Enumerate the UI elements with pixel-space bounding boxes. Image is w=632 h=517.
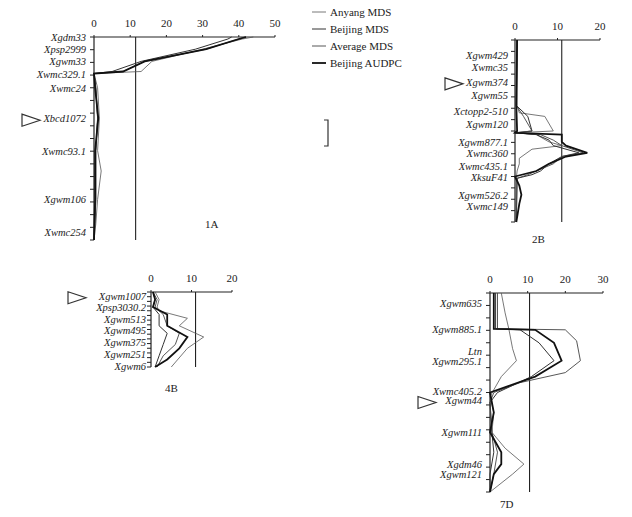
legend-item-anyang: Anyang MDS	[312, 6, 391, 18]
marker-label: Xwmc24	[49, 83, 87, 94]
marker-label: Xwmc360	[466, 148, 509, 159]
series-anyang-7D	[490, 293, 524, 492]
panel-4B: 01020Xgwm1007Xpsp3030.2Xgwm513Xgwm495Xgw…	[68, 272, 238, 394]
marker-label: Xgwm429	[465, 50, 509, 61]
marker-label: Xgwm106	[43, 194, 87, 205]
marker-label: Xgwm6	[114, 361, 147, 372]
marker-label: Xgwm44	[444, 395, 483, 406]
marker-label: Xgwm121	[439, 469, 482, 480]
series-beijing-1A	[94, 37, 232, 240]
marker-label: Xwmc254	[44, 227, 87, 238]
x-tick-label: 0	[487, 273, 493, 285]
series-average-1A	[94, 37, 246, 240]
marker-label: Xbcd1072	[42, 113, 86, 124]
marker-label: Xpsp3030.2	[95, 302, 147, 313]
legend-label-beijing: Beijing MDS	[330, 23, 389, 35]
x-tick-label: 0	[148, 272, 154, 284]
legend-label-anyang: Anyang MDS	[330, 6, 391, 18]
legend-item-beijing: Beijing MDS	[312, 23, 389, 35]
marker-label: Xctopp2-510	[453, 106, 509, 117]
highlight-triangle-icon	[445, 78, 463, 90]
qtl-figure: Anyang MDSBeijing MDSAverage MDSBeijing …	[0, 0, 632, 517]
series-average-7D	[490, 293, 580, 492]
x-tick-label: 10	[125, 17, 137, 29]
marker-label: Xgwm33	[48, 56, 86, 67]
marker-label: Xgwm1007	[98, 291, 147, 302]
x-tick-label: 20	[560, 273, 572, 285]
marker-label: Xwmc329.1	[36, 69, 86, 80]
legend: Anyang MDSBeijing MDSAverage MDSBeijing …	[312, 6, 402, 69]
legend-label-audpc: Beijing AUDPC	[330, 57, 402, 69]
panel-2B: 01020Xgwm429Xwmc35Xgwm374Xgwm55Xctopp2-5…	[445, 20, 606, 245]
legend-item-average: Average MDS	[312, 40, 393, 52]
marker-label: Xgwm877.1	[457, 137, 508, 148]
marker-label: Xgwm495	[103, 325, 146, 336]
x-tick-label: 30	[197, 17, 209, 29]
x-tick-label: 0	[91, 17, 97, 29]
legend-label-average: Average MDS	[330, 40, 393, 52]
marker-label: Xgwm885.1	[431, 324, 482, 335]
x-tick-label: 40	[233, 17, 245, 29]
highlight-triangle-icon	[418, 396, 436, 408]
marker-label: Xgwm111	[441, 427, 482, 438]
marker-label: Xgdm33	[50, 32, 86, 43]
panel-title: 7D	[500, 498, 514, 510]
marker-label: Xgwm295.1	[431, 356, 482, 367]
x-tick-label: 10	[186, 272, 198, 284]
marker-label: Xgwm526.2	[457, 190, 509, 201]
panel-1A: 01020304050Xgdm33Xpsp2999Xgwm33Xwmc329.1…	[22, 17, 281, 240]
series-anyang-1A	[94, 37, 253, 240]
x-tick-label: 10	[522, 273, 534, 285]
x-tick-label: 30	[598, 273, 610, 285]
panel-title: 4B	[165, 382, 178, 394]
panel-title: 1A	[205, 218, 219, 230]
marker-label: Xwmc435.1	[458, 161, 508, 172]
x-tick-label: 20	[161, 17, 173, 29]
x-tick-label: 0	[512, 20, 518, 32]
marker-label: Xwmc35	[471, 62, 508, 73]
marker-label: Xpsp2999	[43, 44, 87, 55]
bracket-mark	[324, 120, 328, 146]
series-audpc-7D	[490, 293, 562, 492]
marker-label: Xwmc149	[466, 201, 509, 212]
marker-label: Xgwm55	[470, 90, 508, 101]
marker-label: Xgwm120	[465, 119, 509, 130]
series-audpc-1A	[94, 37, 246, 240]
x-tick-label: 10	[552, 20, 564, 32]
x-tick-label: 50	[270, 17, 282, 29]
highlight-triangle-icon	[68, 292, 86, 304]
series-beijing-4B	[153, 292, 167, 367]
highlight-triangle-icon	[22, 114, 40, 126]
marker-label: XksuF41	[470, 172, 508, 183]
legend-item-audpc: Beijing AUDPC	[312, 57, 402, 69]
panel-7D: 0102030Xgwm635Xgwm885.1LtnXgwm295.1Xwmc4…	[418, 273, 609, 510]
marker-label: Xwmc93.1	[41, 146, 86, 157]
marker-label: Xgwm635	[439, 298, 482, 309]
marker-label: Xgwm375	[103, 337, 146, 348]
marker-label: Xgwm374	[465, 77, 509, 88]
x-tick-label: 20	[595, 20, 607, 32]
marker-label: Xgwm251	[103, 349, 146, 360]
panel-title: 2B	[532, 233, 545, 245]
x-tick-label: 20	[227, 272, 239, 284]
marker-label: Xgwm513	[103, 314, 146, 325]
